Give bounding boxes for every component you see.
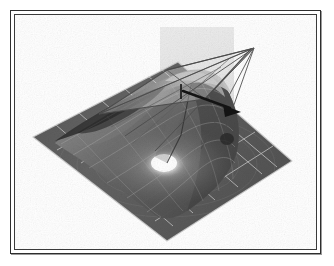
surface-marker-blob [220,133,234,145]
surface-plot-canvas [15,15,316,249]
surface-plot-svg [15,15,316,249]
figure-root [0,0,334,266]
